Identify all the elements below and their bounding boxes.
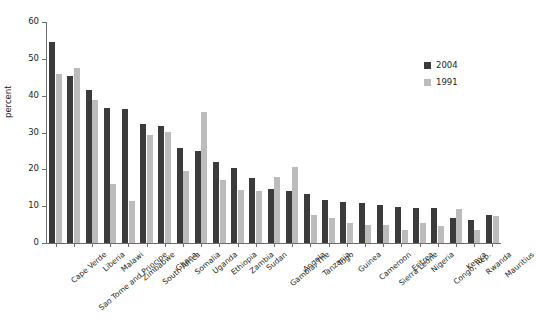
bar-1991 (402, 230, 408, 243)
x-axis-tick-mark (329, 243, 330, 247)
bar-1991 (238, 190, 244, 243)
bar-2004 (249, 178, 255, 243)
bar-2004 (268, 189, 274, 244)
legend-label: 2004 (436, 59, 458, 72)
bar-2004 (450, 218, 456, 243)
legend-item: 1991 (424, 76, 458, 89)
x-axis-tick-mark (128, 243, 129, 247)
bar-1991 (493, 216, 499, 243)
bar-2004 (86, 90, 92, 243)
x-axis-tick-label: Guinea (356, 250, 382, 274)
x-axis-tick-mark (474, 243, 475, 247)
bar-1991 (311, 215, 317, 243)
bar-1991 (201, 112, 207, 243)
bar-2004 (67, 76, 73, 243)
y-axis-tick-label: 30 (28, 126, 39, 139)
bar-2004 (195, 151, 201, 243)
bar-1991 (165, 132, 171, 243)
bar-2004 (304, 194, 310, 243)
x-axis-tick-mark (56, 243, 57, 247)
bar-1991 (110, 184, 116, 243)
bar-1991 (74, 68, 80, 243)
bar-1991 (383, 225, 389, 243)
bar-2004 (158, 126, 164, 243)
x-axis-tick-mark (365, 243, 366, 247)
x-axis-tick-mark (310, 243, 311, 247)
bar-1991 (329, 218, 335, 243)
x-axis-tick-mark (401, 243, 402, 247)
bar-2004 (140, 124, 146, 243)
x-axis-tick-mark (256, 243, 257, 247)
x-axis-tick-mark (201, 243, 202, 247)
x-axis-tick-mark (110, 243, 111, 247)
legend-swatch-icon (424, 62, 431, 69)
legend: 20041991 (424, 59, 458, 93)
bar-1991 (347, 223, 353, 243)
bar-2004 (231, 168, 237, 244)
bar-1991 (183, 171, 189, 243)
bar-2004 (104, 108, 110, 243)
x-axis-tick-mark (420, 243, 421, 247)
y-axis-tick-label: 50 (28, 52, 39, 65)
legend-item: 2004 (424, 59, 458, 72)
bar-2004 (177, 148, 183, 243)
bar-1991 (220, 180, 226, 243)
bar-1991 (456, 209, 462, 243)
bar-2004 (486, 215, 492, 243)
x-axis-tick-mark (492, 243, 493, 247)
y-axis-tick-label: 10 (28, 199, 39, 212)
y-axis-tick-label: 40 (28, 89, 39, 102)
x-axis-tick-mark (238, 243, 239, 247)
x-axis-tick-mark (74, 243, 75, 247)
bar-1991 (129, 201, 135, 243)
bar-2004 (322, 200, 328, 243)
bar-2004 (377, 205, 383, 243)
bar-2004 (122, 109, 128, 243)
bar-2004 (468, 220, 474, 243)
x-axis-tick-mark (456, 243, 457, 247)
legend-swatch-icon (424, 79, 431, 86)
bar-2004 (213, 162, 219, 243)
y-axis-tick-mark (42, 133, 46, 134)
bar-1991 (274, 177, 280, 243)
bar-1991 (56, 74, 62, 243)
x-axis-tick-mark (438, 243, 439, 247)
bar-2004 (340, 202, 346, 243)
bar-1991 (256, 191, 262, 243)
x-axis-tick-mark (347, 243, 348, 247)
bar-2004 (431, 208, 437, 243)
x-axis-tick-mark (183, 243, 184, 247)
bar-2004 (359, 203, 365, 243)
bar-2004 (286, 191, 292, 243)
bar-1991 (438, 226, 444, 243)
x-axis-tick-mark (165, 243, 166, 247)
y-axis-tick-mark (42, 169, 46, 170)
bar-2004 (413, 208, 419, 243)
x-axis-tick-mark (147, 243, 148, 247)
x-axis-tick-mark (274, 243, 275, 247)
bar-1991 (474, 230, 480, 243)
bar-1991 (420, 223, 426, 243)
plot-area: 0102030405060 (46, 22, 501, 243)
y-axis-tick-mark (42, 206, 46, 207)
legend-label: 1991 (436, 76, 458, 89)
x-axis-tick-mark (383, 243, 384, 247)
bar-1991 (92, 100, 98, 243)
x-axis-tick-mark (92, 243, 93, 247)
y-axis-tick-mark (42, 96, 46, 97)
bar-2004 (395, 207, 401, 243)
bar-2004 (49, 42, 55, 243)
x-axis-tick-mark (219, 243, 220, 247)
y-axis-title: percent (3, 85, 13, 118)
y-axis-tick-mark (42, 59, 46, 60)
bar-1991 (292, 167, 298, 243)
x-axis-tick-mark (292, 243, 293, 247)
y-axis-tick-label: 0 (34, 236, 39, 249)
y-axis-tick-label: 20 (28, 162, 39, 175)
y-axis-tick-label: 60 (28, 15, 39, 28)
y-axis-tick-mark (42, 243, 46, 244)
bar-1991 (365, 225, 371, 243)
y-axis-tick-mark (42, 22, 46, 23)
bar-1991 (147, 135, 153, 243)
